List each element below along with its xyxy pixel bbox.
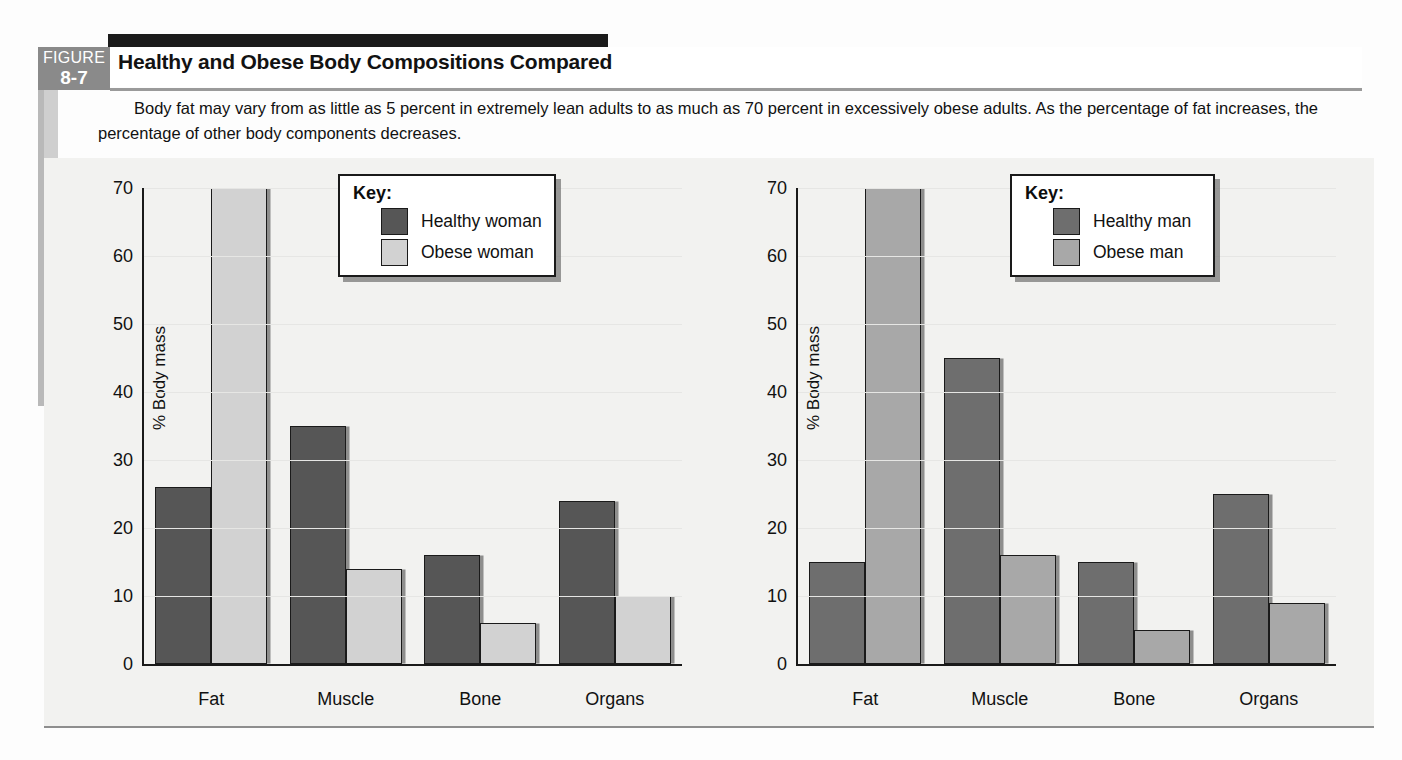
figure-label-word: FIGURE <box>38 47 110 67</box>
gridline <box>798 596 1336 597</box>
header-accent-bar <box>108 34 608 47</box>
bar <box>809 562 865 664</box>
chart-women: % Body mass 010203040506070 FatMuscleBon… <box>68 158 716 726</box>
figure-page: FIGURE 8-7 Healthy and Obese Body Compos… <box>0 0 1402 760</box>
x-axis-label: Muscle <box>933 689 1068 710</box>
legend-label: Healthy woman <box>421 211 542 232</box>
gridline <box>144 460 682 461</box>
legend-men: Key: Healthy manObese man <box>1010 174 1215 277</box>
x-axis-label: Bone <box>1067 689 1202 710</box>
gridline <box>798 528 1336 529</box>
y-tick-label: 40 <box>767 382 787 403</box>
x-axis-label: Bone <box>413 689 548 710</box>
charts-container: % Body mass 010203040506070 FatMuscleBon… <box>44 158 1374 726</box>
figure-title: Healthy and Obese Body Compositions Comp… <box>118 50 612 74</box>
bar <box>1000 555 1056 664</box>
y-tick-label: 30 <box>113 450 133 471</box>
y-tick-label: 0 <box>777 654 787 675</box>
bar <box>211 188 267 664</box>
legend-swatch <box>381 239 408 266</box>
figure-header: FIGURE 8-7 Healthy and Obese Body Compos… <box>0 0 1402 150</box>
gridline <box>144 528 682 529</box>
bar <box>559 501 615 664</box>
y-tick-label: 10 <box>767 586 787 607</box>
legend-swatch <box>381 208 408 235</box>
bar <box>1269 603 1325 664</box>
legend-item: Healthy woman <box>381 208 540 235</box>
y-tick-label: 30 <box>767 450 787 471</box>
gridline <box>144 596 682 597</box>
figure-caption: Body fat may vary from as little as 5 pe… <box>98 96 1370 146</box>
y-tick-label: 0 <box>123 654 133 675</box>
legend-label: Healthy man <box>1093 211 1191 232</box>
gridline <box>144 324 682 325</box>
gridline <box>144 392 682 393</box>
bar <box>1134 630 1190 664</box>
legend-label: Obese woman <box>421 242 534 263</box>
y-tick-label: 50 <box>113 314 133 335</box>
x-axis-label: Fat <box>798 689 933 710</box>
x-axis-labels-men: FatMuscleBoneOrgans <box>798 689 1336 710</box>
legend-items-men: Healthy manObese man <box>1025 208 1199 266</box>
y-tick-label: 60 <box>767 246 787 267</box>
bar-group <box>548 188 683 664</box>
x-axis-women <box>142 664 682 666</box>
bar-group <box>798 188 933 664</box>
x-axis-labels-women: FatMuscleBoneOrgans <box>144 689 682 710</box>
x-axis-label: Fat <box>144 689 279 710</box>
bar <box>424 555 480 664</box>
gridline <box>798 460 1336 461</box>
bar <box>290 426 346 664</box>
legend-title-men: Key: <box>1025 183 1199 204</box>
figure-number: 8-7 <box>38 67 110 88</box>
gridline <box>798 324 1336 325</box>
y-tick-label: 40 <box>113 382 133 403</box>
bar <box>1213 494 1269 664</box>
legend-swatch <box>1053 239 1080 266</box>
bar-group <box>1202 188 1337 664</box>
bar <box>944 358 1000 664</box>
y-tick-label: 20 <box>113 518 133 539</box>
legend-item: Healthy man <box>1053 208 1199 235</box>
footer-divider <box>44 726 1374 728</box>
legend-items-women: Healthy womanObese woman <box>353 208 540 266</box>
bar <box>155 487 211 664</box>
bar <box>865 188 921 664</box>
x-axis-label: Organs <box>548 689 683 710</box>
legend-label: Obese man <box>1093 242 1183 263</box>
legend-item: Obese man <box>1053 239 1199 266</box>
bar <box>1078 562 1134 664</box>
legend-title-women: Key: <box>353 183 540 204</box>
y-tick-label: 10 <box>113 586 133 607</box>
y-tick-label: 60 <box>113 246 133 267</box>
gridline <box>798 392 1336 393</box>
legend-women: Key: Healthy womanObese woman <box>338 174 556 277</box>
x-axis-label: Organs <box>1202 689 1337 710</box>
x-axis-label: Muscle <box>279 689 414 710</box>
x-axis-men <box>796 664 1336 666</box>
y-tick-label: 50 <box>767 314 787 335</box>
y-tick-label: 70 <box>767 178 787 199</box>
legend-swatch <box>1053 208 1080 235</box>
bar <box>480 623 536 664</box>
title-divider <box>110 88 1362 91</box>
chart-men: % Body mass 010203040506070 FatMuscleBon… <box>722 158 1370 726</box>
y-tick-label: 70 <box>113 178 133 199</box>
bar-group <box>144 188 279 664</box>
bar <box>346 569 402 664</box>
figure-number-block: FIGURE 8-7 <box>38 47 110 90</box>
y-tick-label: 20 <box>767 518 787 539</box>
bar <box>615 596 671 664</box>
legend-item: Obese woman <box>381 239 540 266</box>
